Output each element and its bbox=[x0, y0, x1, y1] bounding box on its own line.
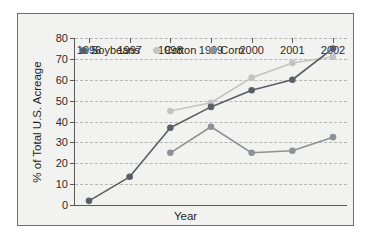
legend: SoybeansCottonCorn bbox=[80, 45, 244, 56]
legend-label: Cotton bbox=[164, 45, 196, 56]
y-tick-label: 20 bbox=[56, 158, 68, 169]
data-point bbox=[86, 198, 93, 205]
figure: % of Total U.S. Acreage Year SoybeansCot… bbox=[0, 0, 372, 242]
y-axis-title: % of Total U.S. Acreage bbox=[31, 61, 43, 182]
series-layer bbox=[75, 38, 347, 205]
data-point bbox=[167, 108, 174, 115]
y-tick-label: 50 bbox=[56, 95, 68, 106]
data-point bbox=[330, 45, 337, 52]
data-point bbox=[248, 150, 255, 157]
y-tick-label: 30 bbox=[56, 137, 68, 148]
series-line bbox=[170, 127, 333, 153]
series-cotton bbox=[167, 53, 336, 114]
data-point bbox=[330, 134, 337, 141]
data-point bbox=[208, 104, 215, 111]
legend-label: Soybeans bbox=[91, 45, 140, 56]
series-line bbox=[170, 57, 333, 111]
legend-marker-icon bbox=[80, 47, 87, 54]
legend-marker-icon bbox=[209, 47, 216, 54]
y-tick-label: 60 bbox=[56, 74, 68, 85]
y-tick-label: 70 bbox=[56, 53, 68, 64]
data-point bbox=[289, 60, 296, 67]
legend-item-corn: Corn bbox=[209, 45, 244, 56]
y-tick-label: 0 bbox=[62, 200, 68, 211]
data-point bbox=[126, 174, 133, 181]
y-tick bbox=[70, 205, 75, 206]
data-point bbox=[248, 74, 255, 81]
data-point bbox=[208, 123, 215, 130]
legend-item-soybeans: Soybeans bbox=[80, 45, 140, 56]
data-point bbox=[330, 53, 337, 60]
data-point bbox=[248, 87, 255, 94]
legend-label: Corn bbox=[220, 45, 244, 56]
legend-marker-icon bbox=[153, 47, 160, 54]
data-point bbox=[167, 150, 174, 157]
y-tick-label: 10 bbox=[56, 179, 68, 190]
series-corn bbox=[167, 123, 336, 156]
legend-item-cotton: Cotton bbox=[153, 45, 196, 56]
y-tick-label: 40 bbox=[56, 116, 68, 127]
y-tick-label: 80 bbox=[56, 33, 68, 44]
plot-area: 01020304050607080 1996199719981999200020… bbox=[74, 38, 347, 206]
data-point bbox=[289, 76, 296, 83]
data-point bbox=[289, 147, 296, 154]
x-axis-title: Year bbox=[18, 210, 353, 222]
data-point bbox=[167, 124, 174, 131]
chart-panel: % of Total U.S. Acreage Year SoybeansCot… bbox=[17, 13, 354, 226]
